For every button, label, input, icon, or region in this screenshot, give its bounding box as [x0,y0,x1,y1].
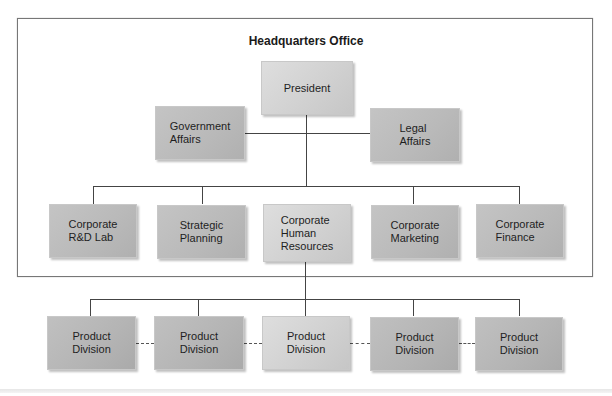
product-division-label: Product Division [72,330,111,356]
bottom-rule [0,389,612,393]
connector-div-5 [519,299,520,316]
corporate-hr-box[interactable]: Corporate Human Resources [263,204,351,262]
product-division-box-5[interactable]: Product Division [475,317,563,371]
connector-corp-1 [93,186,94,204]
connector-president-trunk [306,115,307,186]
corporate-rd-lab-label: Corporate R&D Lab [69,218,118,244]
strategic-planning-box[interactable]: Strategic Planning [157,205,246,259]
connector-div-2 [198,299,199,316]
corporate-marketing-box[interactable]: Corporate Marketing [371,205,459,259]
product-division-label: Product Division [180,330,219,356]
product-division-box-1[interactable]: Product Division [47,316,136,370]
headquarters-title: Headquarters Office [0,34,612,48]
dashed-link-2-3 [244,343,262,344]
corporate-finance-label: Corporate Finance [496,218,545,244]
product-division-label: Product Division [287,330,326,356]
dashed-link-1-2 [136,343,154,344]
product-division-box-4[interactable]: Product Division [370,317,459,371]
connector-division-trunk [305,262,306,316]
corporate-marketing-label: Corporate Marketing [391,219,440,245]
government-affairs-label: Government Affairs [170,120,231,146]
dashed-link-3-4 [350,343,370,344]
connector-corp-2 [202,186,203,204]
president-label: President [284,82,330,95]
connector-corporate-bus [93,186,520,187]
government-affairs-box[interactable]: Government Affairs [155,106,245,160]
connector-staff-bus [245,133,370,134]
legal-affairs-box[interactable]: Legal Affairs [370,108,460,162]
president-box[interactable]: President [261,61,353,115]
product-division-box-3[interactable]: Product Division [262,316,350,370]
legal-affairs-label: Legal Affairs [400,122,431,148]
corporate-rd-lab-box[interactable]: Corporate R&D Lab [49,204,137,258]
connector-division-bus [90,299,520,300]
strategic-planning-label: Strategic Planning [180,219,223,245]
product-division-box-2[interactable]: Product Division [154,316,244,370]
corporate-hr-label: Corporate Human Resources [281,214,334,253]
connector-div-4 [413,299,414,316]
product-division-label: Product Division [500,331,539,357]
connector-corp-4 [413,186,414,204]
product-division-label: Product Division [395,331,434,357]
connector-corp-5 [519,186,520,204]
dashed-link-4-5 [459,343,475,344]
connector-div-1 [90,299,91,316]
corporate-finance-box[interactable]: Corporate Finance [476,204,564,258]
